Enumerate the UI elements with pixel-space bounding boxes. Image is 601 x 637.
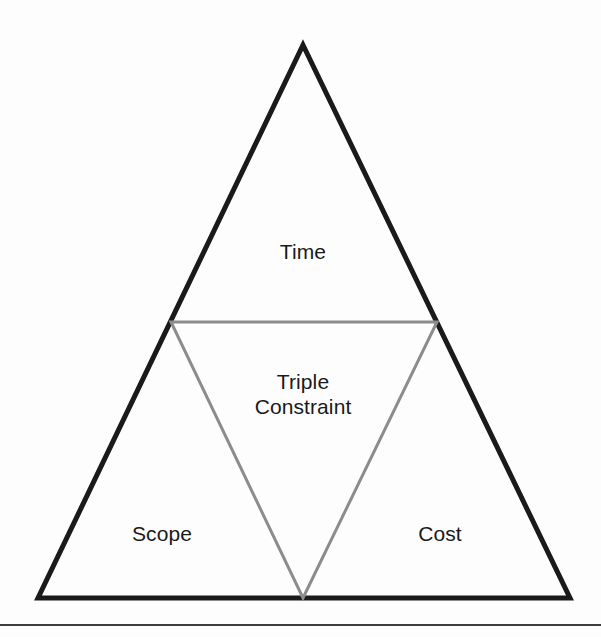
inner-inverted-triangle-shape [171, 322, 437, 598]
label-scope: Scope [132, 521, 192, 546]
triangle-graphic [0, 0, 601, 637]
triple-constraint-diagram: Time Triple Constraint Scope Cost [0, 0, 601, 637]
label-time: Time [280, 239, 326, 264]
label-cost: Cost [418, 521, 462, 546]
label-triple-constraint: Triple Constraint [255, 369, 352, 419]
